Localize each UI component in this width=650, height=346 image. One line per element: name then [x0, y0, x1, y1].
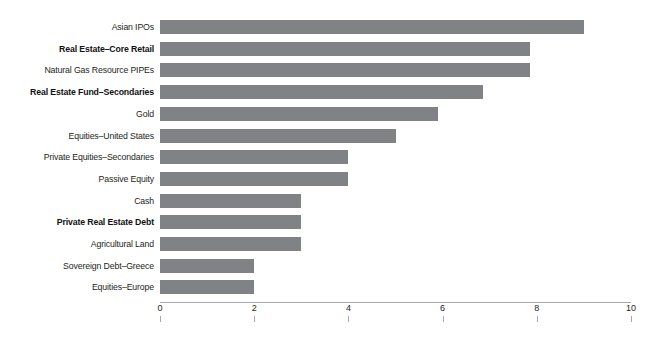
x-tick-label: 10	[626, 303, 636, 313]
bar-fill	[160, 85, 483, 99]
bar-row: Agricultural Land	[0, 237, 650, 251]
bar	[160, 150, 348, 164]
bar-category-label: Gold	[7, 106, 154, 121]
bar-fill	[160, 129, 396, 143]
bar-fill	[160, 280, 254, 294]
bar-row: Equities–United States	[0, 129, 650, 143]
bar	[160, 259, 254, 273]
x-tick-label: 4	[346, 303, 351, 313]
x-tick-label: 8	[534, 303, 539, 313]
bar	[160, 215, 301, 229]
bar-row: Natural Gas Resource PIPEs	[0, 63, 650, 77]
bar-category-label: Agricultural Land	[7, 236, 154, 251]
bar-category-label: Passive Equity	[7, 171, 154, 186]
bar	[160, 63, 530, 77]
x-tick-mark	[631, 316, 632, 322]
bar-row: Private Real Estate Debt	[0, 215, 650, 229]
x-tick-label: 6	[440, 303, 445, 313]
bar	[160, 172, 348, 186]
bar-row: Gold	[0, 107, 650, 121]
bar-category-label: Cash	[7, 193, 154, 208]
bar-category-label: Asian IPOs	[7, 19, 154, 34]
bar	[160, 237, 301, 251]
bar	[160, 280, 254, 294]
x-tick-mark	[537, 316, 538, 322]
bar-category-label: Private Equities–Secondaries	[7, 149, 154, 164]
bar-category-label: Sovereign Debt–Greece	[7, 258, 154, 273]
bar-fill	[160, 150, 348, 164]
bar-row: Passive Equity	[0, 172, 650, 186]
bar-chart: Asian IPOsReal Estate–Core RetailNatural…	[0, 0, 650, 346]
x-tick-mark	[443, 316, 444, 322]
bar-row: Real Estate Fund–Secondaries	[0, 85, 650, 99]
bar	[160, 194, 301, 208]
bar-category-label: Real Estate–Core Retail	[7, 41, 154, 56]
bar-fill	[160, 237, 301, 251]
bar	[160, 85, 483, 99]
bar	[160, 20, 584, 34]
bar	[160, 107, 438, 121]
bar-row: Cash	[0, 194, 650, 208]
x-tick-label: 2	[252, 303, 257, 313]
bar-fill	[160, 194, 301, 208]
bar-row: Private Equities–Secondaries	[0, 150, 650, 164]
bar-fill	[160, 42, 530, 56]
x-tick-mark	[160, 316, 161, 322]
bar-fill	[160, 20, 584, 34]
x-axis-ticks: 0246810	[160, 296, 631, 322]
bar-category-label: Real Estate Fund–Secondaries	[7, 84, 154, 99]
bar-category-label: Equities–United States	[7, 128, 154, 143]
bar-row: Equities–Europe	[0, 280, 650, 294]
bar-row: Asian IPOs	[0, 20, 650, 34]
bar-row: Real Estate–Core Retail	[0, 42, 650, 56]
bar-category-label: Equities–Europe	[7, 279, 154, 294]
bar-fill	[160, 172, 348, 186]
x-tick-mark	[254, 316, 255, 322]
x-tick-mark	[348, 316, 349, 322]
bar-fill	[160, 215, 301, 229]
bar-category-label: Private Real Estate Debt	[7, 214, 154, 229]
bar-row: Sovereign Debt–Greece	[0, 259, 650, 273]
x-tick-label: 0	[157, 303, 162, 313]
bar-fill	[160, 259, 254, 273]
bar-category-label: Natural Gas Resource PIPEs	[7, 62, 154, 77]
bar-fill	[160, 107, 438, 121]
bar	[160, 42, 530, 56]
bar	[160, 129, 396, 143]
bar-fill	[160, 63, 530, 77]
